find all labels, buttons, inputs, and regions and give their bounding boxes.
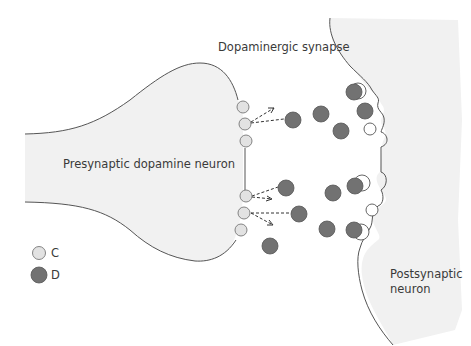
postsynaptic-label: Postsynaptic neuron bbox=[390, 267, 470, 297]
legend-c-icon bbox=[33, 247, 46, 260]
postsynaptic-label-line1: Postsynaptic bbox=[390, 267, 470, 282]
legend-d-label: D bbox=[51, 268, 60, 282]
postsynaptic-label-line2: neuron bbox=[390, 282, 470, 297]
d-molecules bbox=[262, 84, 373, 254]
legend-d-icon bbox=[31, 267, 47, 283]
presynaptic-label: Presynaptic dopamine neuron bbox=[63, 157, 235, 171]
arrow-heads bbox=[266, 108, 274, 225]
release-arrows bbox=[251, 108, 292, 225]
diagram-title: Dopaminergic synapse bbox=[218, 40, 350, 54]
legend-c-label: C bbox=[51, 246, 59, 260]
